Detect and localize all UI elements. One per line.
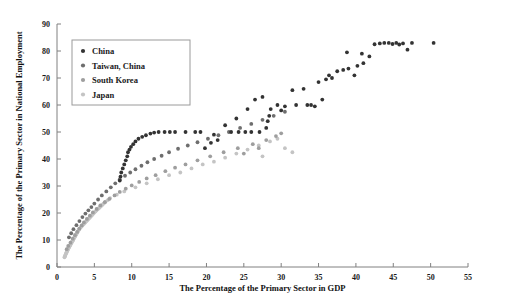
data-point bbox=[73, 233, 77, 237]
data-point bbox=[119, 175, 123, 179]
data-point bbox=[199, 130, 203, 134]
data-point bbox=[324, 77, 328, 81]
y-tick-label: 90 bbox=[42, 20, 50, 29]
data-point bbox=[196, 140, 200, 144]
data-point bbox=[382, 41, 386, 45]
data-point bbox=[269, 107, 273, 111]
legend-label-4[interactable]: Japan bbox=[92, 90, 114, 100]
data-point bbox=[360, 52, 364, 56]
data-point bbox=[401, 42, 405, 46]
data-point bbox=[134, 140, 138, 144]
data-point bbox=[237, 130, 241, 134]
legend-marker-4 bbox=[81, 92, 85, 96]
data-point bbox=[92, 202, 96, 206]
data-point bbox=[243, 130, 247, 134]
series-taiwan-china bbox=[67, 110, 287, 239]
data-point bbox=[72, 227, 76, 231]
data-point bbox=[212, 133, 216, 137]
data-point bbox=[86, 208, 90, 212]
data-point bbox=[258, 130, 262, 134]
data-point bbox=[345, 50, 349, 54]
data-point bbox=[157, 130, 161, 134]
data-point bbox=[173, 166, 177, 170]
data-point bbox=[242, 152, 246, 156]
data-point bbox=[134, 167, 138, 171]
x-tick-label: 45 bbox=[389, 273, 397, 282]
data-point bbox=[118, 190, 122, 194]
data-point bbox=[236, 146, 240, 150]
data-point bbox=[190, 167, 194, 171]
data-point bbox=[88, 214, 92, 218]
y-tick-label: 20 bbox=[42, 209, 50, 218]
data-point bbox=[137, 137, 141, 141]
data-point bbox=[406, 48, 410, 52]
data-point bbox=[130, 184, 134, 188]
data-point bbox=[69, 241, 73, 245]
data-point bbox=[264, 138, 268, 142]
data-point bbox=[279, 131, 283, 135]
data-point bbox=[305, 103, 309, 107]
y-tick-label: 0 bbox=[46, 263, 50, 272]
data-point bbox=[378, 42, 382, 46]
data-point bbox=[268, 140, 272, 144]
data-point bbox=[209, 141, 213, 145]
data-point bbox=[66, 244, 70, 248]
x-tick-label: 30 bbox=[277, 273, 285, 282]
data-point bbox=[173, 130, 177, 134]
data-point bbox=[353, 73, 357, 77]
data-point bbox=[251, 142, 255, 146]
data-point bbox=[154, 173, 158, 177]
data-point bbox=[373, 42, 377, 46]
scatter-chart: 0510152025303540455055010203040506070809… bbox=[0, 0, 513, 301]
data-point bbox=[246, 148, 250, 152]
y-tick-label: 60 bbox=[42, 101, 50, 110]
data-point bbox=[152, 131, 156, 135]
data-point bbox=[75, 230, 79, 234]
data-point bbox=[178, 171, 182, 175]
data-point bbox=[144, 133, 148, 137]
data-point bbox=[327, 73, 331, 77]
plot-area: 0510152025303540455055010203040506070809… bbox=[0, 0, 513, 301]
data-point bbox=[249, 130, 253, 134]
y-axis-title: The Percentage of the Primary Sector in … bbox=[14, 31, 24, 259]
data-point bbox=[140, 135, 144, 139]
data-point bbox=[272, 114, 276, 118]
data-point bbox=[264, 126, 268, 130]
data-point bbox=[283, 146, 287, 150]
data-point bbox=[261, 95, 265, 99]
x-tick-label: 0 bbox=[55, 273, 59, 282]
data-point bbox=[208, 154, 212, 158]
x-tick-label: 20 bbox=[202, 273, 210, 282]
data-point bbox=[81, 215, 85, 219]
y-tick-label: 30 bbox=[42, 182, 50, 191]
data-point bbox=[234, 152, 238, 156]
legend-label-1[interactable]: China bbox=[92, 46, 115, 56]
data-point bbox=[149, 132, 153, 136]
data-point bbox=[223, 123, 227, 127]
data-point bbox=[145, 177, 149, 181]
data-point bbox=[238, 126, 242, 130]
x-tick-label: 10 bbox=[128, 273, 136, 282]
data-point bbox=[283, 104, 287, 108]
data-point bbox=[397, 43, 401, 47]
data-point bbox=[75, 223, 79, 227]
legend-label-3[interactable]: South Korea bbox=[92, 75, 139, 85]
x-tick-label: 5 bbox=[92, 273, 96, 282]
y-tick-label: 40 bbox=[42, 155, 50, 164]
data-point bbox=[267, 114, 271, 118]
data-point bbox=[184, 130, 188, 134]
data-point bbox=[294, 103, 298, 107]
data-point bbox=[193, 130, 197, 134]
data-point bbox=[107, 197, 111, 201]
data-point bbox=[229, 130, 233, 134]
data-point bbox=[212, 160, 216, 164]
data-point bbox=[122, 163, 126, 167]
data-point bbox=[71, 237, 75, 241]
data-point bbox=[410, 41, 414, 45]
data-point bbox=[335, 69, 339, 73]
data-point bbox=[320, 98, 324, 102]
data-point bbox=[196, 158, 200, 162]
data-point bbox=[223, 156, 227, 160]
legend-label-2[interactable]: Taiwan, China bbox=[92, 61, 146, 71]
data-point bbox=[113, 194, 117, 198]
